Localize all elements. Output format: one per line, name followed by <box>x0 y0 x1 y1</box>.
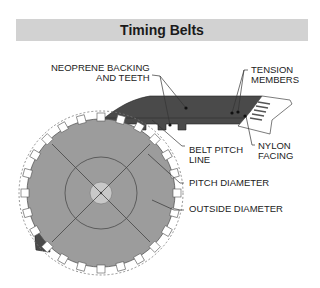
label-pitch-diameter: PITCH DIAMETER <box>189 178 269 188</box>
label-tension-members: TENSION MEMBERS <box>251 65 299 85</box>
label-neoprene: NEOPRENE BACKING AND TEETH <box>51 63 150 83</box>
label-belt-pitch-line: BELT PITCH LINE <box>189 145 243 165</box>
label-nylon-facing: NYLON FACING <box>258 141 293 161</box>
label-outside-diameter: OUTSIDE DIAMETER <box>189 204 283 214</box>
pulley <box>21 113 181 273</box>
